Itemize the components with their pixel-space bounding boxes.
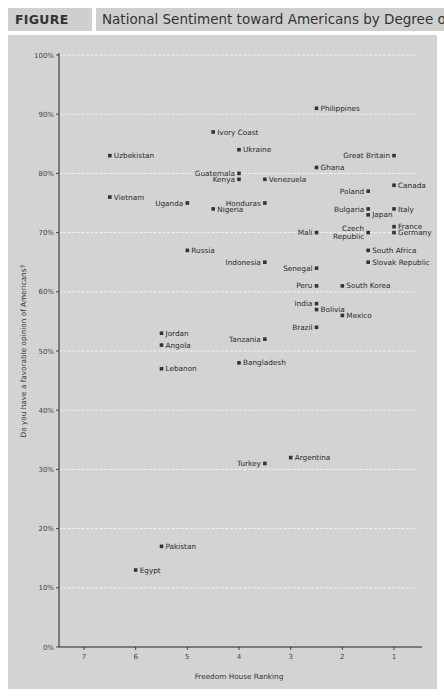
data-points: PhilippinesIvory CoastUkraineUzbekistanG… <box>108 104 432 575</box>
point-label: Japan <box>371 210 392 219</box>
data-point: Ivory Coast <box>211 128 258 137</box>
square-marker-icon <box>237 172 241 176</box>
data-point: Vietnam <box>108 193 144 202</box>
point-label: Bolivia <box>321 305 345 314</box>
square-marker-icon <box>211 207 215 211</box>
point-label: Pakistan <box>166 542 197 551</box>
square-marker-icon <box>315 284 319 288</box>
data-point: Turkey <box>236 459 267 468</box>
data-point: Russia <box>186 246 215 255</box>
data-point: Argentina <box>289 453 330 462</box>
point-label: Turkey <box>236 459 261 468</box>
point-label: Lebanon <box>166 364 197 373</box>
y-tick-label: 90% <box>38 111 54 119</box>
x-axis-title: Freedom House Ranking <box>195 672 284 681</box>
square-marker-icon <box>263 260 267 264</box>
square-marker-icon <box>263 462 267 466</box>
square-marker-icon <box>341 284 345 288</box>
data-point: Jordan <box>160 329 189 338</box>
square-marker-icon <box>289 456 293 460</box>
data-point: Uganda <box>155 199 189 208</box>
x-tick-label: 2 <box>340 653 344 661</box>
square-marker-icon <box>237 178 241 182</box>
square-marker-icon <box>366 213 370 217</box>
square-marker-icon <box>366 231 370 235</box>
point-label: Ivory Coast <box>217 128 258 137</box>
data-point: Lebanon <box>160 364 197 373</box>
square-marker-icon <box>263 201 267 205</box>
x-tick-label: 3 <box>288 653 292 661</box>
data-point: Kenya <box>213 175 241 184</box>
point-label: Canada <box>398 181 426 190</box>
square-marker-icon <box>366 189 370 193</box>
data-point: South Africa <box>366 246 416 255</box>
square-marker-icon <box>160 343 164 347</box>
y-tick-label: 70% <box>38 229 54 237</box>
square-marker-icon <box>134 568 138 572</box>
point-label: Ukraine <box>243 145 272 154</box>
point-label: Kenya <box>213 175 235 184</box>
square-marker-icon <box>366 207 370 211</box>
point-label: Uganda <box>155 199 183 208</box>
point-label: Venezuela <box>269 175 306 184</box>
square-marker-icon <box>315 302 319 306</box>
square-marker-icon <box>263 178 267 182</box>
point-label: Philippines <box>321 104 361 113</box>
axes <box>59 53 422 647</box>
point-label: Vietnam <box>114 193 144 202</box>
square-marker-icon <box>366 249 370 253</box>
square-marker-icon <box>186 249 190 253</box>
y-tick-label: 60% <box>38 288 54 296</box>
x-tick-label: 5 <box>185 653 189 661</box>
y-tick-label: 0% <box>43 644 54 652</box>
point-label: Ghana <box>321 163 345 172</box>
x-tick-label: 1 <box>392 653 396 661</box>
data-point: Tanzania <box>228 335 267 344</box>
square-marker-icon <box>263 337 267 341</box>
data-point: India <box>295 299 319 308</box>
square-marker-icon <box>237 361 241 365</box>
data-point: Philippines <box>315 104 360 113</box>
data-point: Senegal <box>283 264 318 273</box>
point-label: Slovak Republic <box>372 258 430 267</box>
data-point: Great Britain <box>343 151 395 160</box>
data-point: Mexico <box>341 311 373 320</box>
square-marker-icon <box>108 154 112 158</box>
square-marker-icon <box>108 195 112 199</box>
square-marker-icon <box>392 231 396 235</box>
data-point: Uzbekistan <box>108 151 154 160</box>
square-marker-icon <box>315 166 319 170</box>
x-tick-label: 4 <box>237 653 242 661</box>
square-marker-icon <box>366 260 370 264</box>
data-point: Bolivia <box>315 305 345 314</box>
square-marker-icon <box>392 154 396 158</box>
point-label: Peru <box>296 281 312 290</box>
point-label: Russia <box>191 246 214 255</box>
data-point: Brazil <box>292 323 318 332</box>
y-tick-label: 30% <box>38 466 54 474</box>
data-point: Pakistan <box>160 542 196 551</box>
square-marker-icon <box>315 106 319 110</box>
data-point: Indonesia <box>226 258 267 267</box>
square-marker-icon <box>392 183 396 187</box>
data-point: Venezuela <box>263 175 306 184</box>
data-point: Canada <box>392 181 426 190</box>
point-label: Argentina <box>295 453 331 462</box>
point-label: Uzbekistan <box>114 151 154 160</box>
data-point: Ghana <box>315 163 345 172</box>
data-point: Nigeria <box>211 205 243 214</box>
point-label: Mali <box>298 228 313 237</box>
y-axis-ticks: 0%10%20%30%40%50%60%70%80%90%100% <box>34 52 59 652</box>
point-label: Republic <box>333 232 364 241</box>
point-label: Tanzania <box>228 335 261 344</box>
point-label: South Africa <box>372 246 416 255</box>
data-point: Ukraine <box>237 145 271 154</box>
data-point: Bangladesh <box>237 358 286 367</box>
data-point: Bulgaria <box>334 205 370 214</box>
scatter-chart: 0%10%20%30%40%50%60%70%80%90%100% 765432… <box>0 0 444 700</box>
square-marker-icon <box>315 308 319 312</box>
square-marker-icon <box>160 331 164 335</box>
square-marker-icon <box>160 545 164 549</box>
point-label: Nigeria <box>217 205 243 214</box>
point-label: Germany <box>398 228 432 237</box>
